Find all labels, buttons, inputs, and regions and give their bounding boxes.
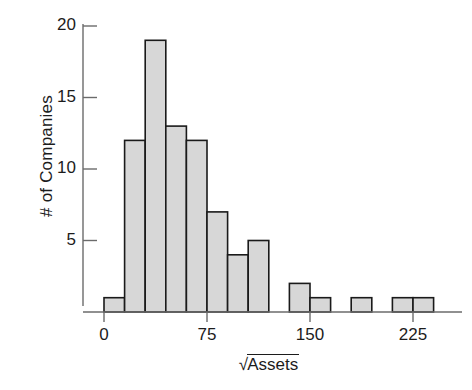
x-axis-tick-label: 150 bbox=[287, 325, 333, 345]
histogram-figure: # of Companies √Assets 5101520075150225 bbox=[0, 0, 472, 390]
histogram-bar bbox=[351, 298, 372, 312]
bars-group bbox=[104, 40, 434, 312]
histogram-bar bbox=[125, 140, 146, 312]
histogram-bar bbox=[166, 126, 187, 312]
histogram-bar bbox=[228, 255, 249, 312]
x-axis-tick-label: 75 bbox=[184, 325, 230, 345]
y-axis-tick-label: 20 bbox=[42, 15, 76, 35]
x-axis-tick-label: 0 bbox=[81, 325, 127, 345]
histogram-bar bbox=[289, 283, 310, 312]
histogram-bar bbox=[413, 298, 434, 312]
histogram-bar bbox=[145, 40, 166, 312]
histogram-bar bbox=[186, 140, 207, 312]
histogram-bar bbox=[207, 212, 228, 312]
y-axis-tick-label: 10 bbox=[42, 158, 76, 178]
x-axis-tick-label: 225 bbox=[390, 325, 436, 345]
y-axis-tick-label: 15 bbox=[42, 87, 76, 107]
histogram-bar bbox=[104, 298, 125, 312]
y-axis-tick-label: 5 bbox=[42, 230, 76, 250]
histogram-bar bbox=[248, 241, 269, 313]
histogram-bar bbox=[310, 298, 331, 312]
histogram-bar bbox=[392, 298, 413, 312]
